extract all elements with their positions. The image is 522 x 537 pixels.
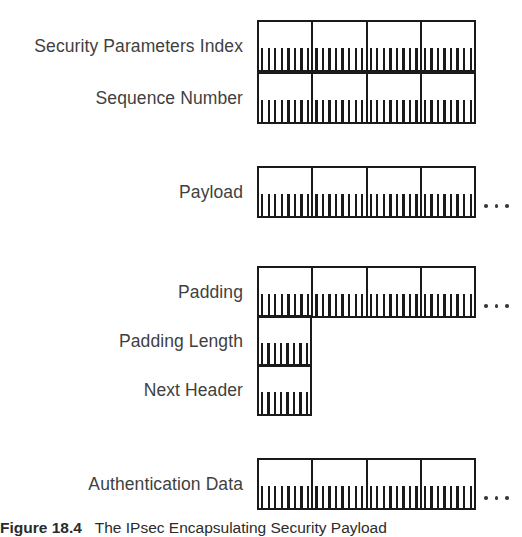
bit-tick — [402, 48, 404, 70]
bit-tick — [268, 100, 270, 122]
bitfield-cell — [257, 458, 311, 510]
bit-tick — [306, 343, 308, 365]
bit-tick — [415, 294, 417, 316]
bit-tick-group — [261, 343, 308, 365]
bit-tick — [389, 194, 391, 216]
bit-tick — [335, 100, 337, 122]
bit-tick — [389, 48, 391, 70]
bitfield-security-parameters-index — [257, 20, 476, 72]
bit-tick — [396, 48, 398, 70]
bit-tick — [450, 486, 452, 508]
bit-tick — [370, 486, 372, 508]
bit-tick — [396, 194, 398, 216]
bitfield-cell — [420, 166, 476, 218]
bit-tick — [456, 48, 458, 70]
bitfield-cell — [420, 72, 476, 124]
bit-tick — [383, 194, 385, 216]
bit-tick — [286, 343, 288, 365]
bitfield-next-header — [257, 364, 312, 416]
bit-tick — [430, 294, 432, 316]
field-label-sequence-number: Sequence Number — [0, 72, 243, 124]
field-row-padding-length: Padding Length — [0, 315, 522, 367]
bit-tick-group — [315, 100, 363, 122]
bit-tick — [361, 486, 363, 508]
figure-caption-text: The IPsec Encapsulating Security Payload — [95, 519, 387, 536]
bit-tick — [261, 486, 263, 508]
bit-tick — [463, 100, 465, 122]
bit-tick — [341, 48, 343, 70]
bit-tick-group — [370, 486, 418, 508]
bit-tick — [299, 392, 301, 414]
bit-tick — [415, 100, 417, 122]
bit-tick — [274, 392, 276, 414]
bit-tick — [355, 486, 357, 508]
bit-tick — [287, 486, 289, 508]
bit-tick — [415, 194, 417, 216]
bit-tick — [341, 100, 343, 122]
bit-tick — [376, 48, 378, 70]
bit-tick — [328, 48, 330, 70]
bit-tick — [348, 294, 350, 316]
bit-tick — [376, 294, 378, 316]
bit-tick — [355, 100, 357, 122]
bit-tick — [281, 100, 283, 122]
bit-tick — [341, 486, 343, 508]
bit-tick — [470, 100, 472, 122]
bit-tick — [280, 343, 282, 365]
bit-tick — [274, 48, 276, 70]
bit-tick-group — [261, 294, 309, 316]
bit-tick — [383, 100, 385, 122]
bit-tick — [470, 486, 472, 508]
bit-tick — [443, 294, 445, 316]
bit-tick — [322, 194, 324, 216]
bit-tick — [450, 294, 452, 316]
esp-packet-format-figure: Security Parameters Index Sequence Numbe… — [0, 0, 522, 537]
bitfield-cell — [366, 72, 420, 124]
bit-tick — [281, 48, 283, 70]
bit-tick — [348, 194, 350, 216]
ellipsis-dot — [505, 204, 509, 208]
bitfield-cell — [311, 266, 365, 318]
bit-tick — [383, 486, 385, 508]
bit-tick — [456, 486, 458, 508]
bit-tick — [261, 48, 263, 70]
bit-tick — [430, 48, 432, 70]
bit-tick-group — [261, 48, 309, 70]
bit-tick — [281, 194, 283, 216]
bit-tick — [300, 48, 302, 70]
bit-tick — [456, 194, 458, 216]
bit-tick — [450, 100, 452, 122]
bit-tick — [355, 194, 357, 216]
bit-tick — [335, 294, 337, 316]
bit-tick — [361, 48, 363, 70]
bit-tick — [443, 48, 445, 70]
bit-tick — [470, 294, 472, 316]
bit-tick — [307, 294, 309, 316]
bit-tick — [261, 343, 263, 365]
field-label-next-header: Next Header — [0, 364, 243, 416]
bit-tick — [322, 294, 324, 316]
bit-tick — [280, 392, 282, 414]
bit-tick — [348, 48, 350, 70]
bit-tick — [355, 48, 357, 70]
bit-tick — [370, 48, 372, 70]
ellipsis-dot — [505, 304, 509, 308]
field-row-next-header: Next Header — [0, 364, 522, 416]
bit-tick — [300, 194, 302, 216]
bitfield-cell — [257, 315, 312, 367]
bit-tick — [261, 392, 263, 414]
bit-tick — [315, 194, 317, 216]
bit-tick — [328, 486, 330, 508]
bit-tick — [376, 100, 378, 122]
field-row-authentication-data: Authentication Data — [0, 458, 522, 510]
bit-tick-group — [315, 194, 363, 216]
bit-tick — [437, 486, 439, 508]
bit-tick — [415, 48, 417, 70]
auth-block: Authentication Data — [0, 458, 522, 510]
bit-tick — [456, 100, 458, 122]
bitfield-cell — [257, 72, 311, 124]
bit-tick — [287, 294, 289, 316]
bit-tick — [307, 194, 309, 216]
bit-tick — [396, 100, 398, 122]
bit-tick — [307, 48, 309, 70]
